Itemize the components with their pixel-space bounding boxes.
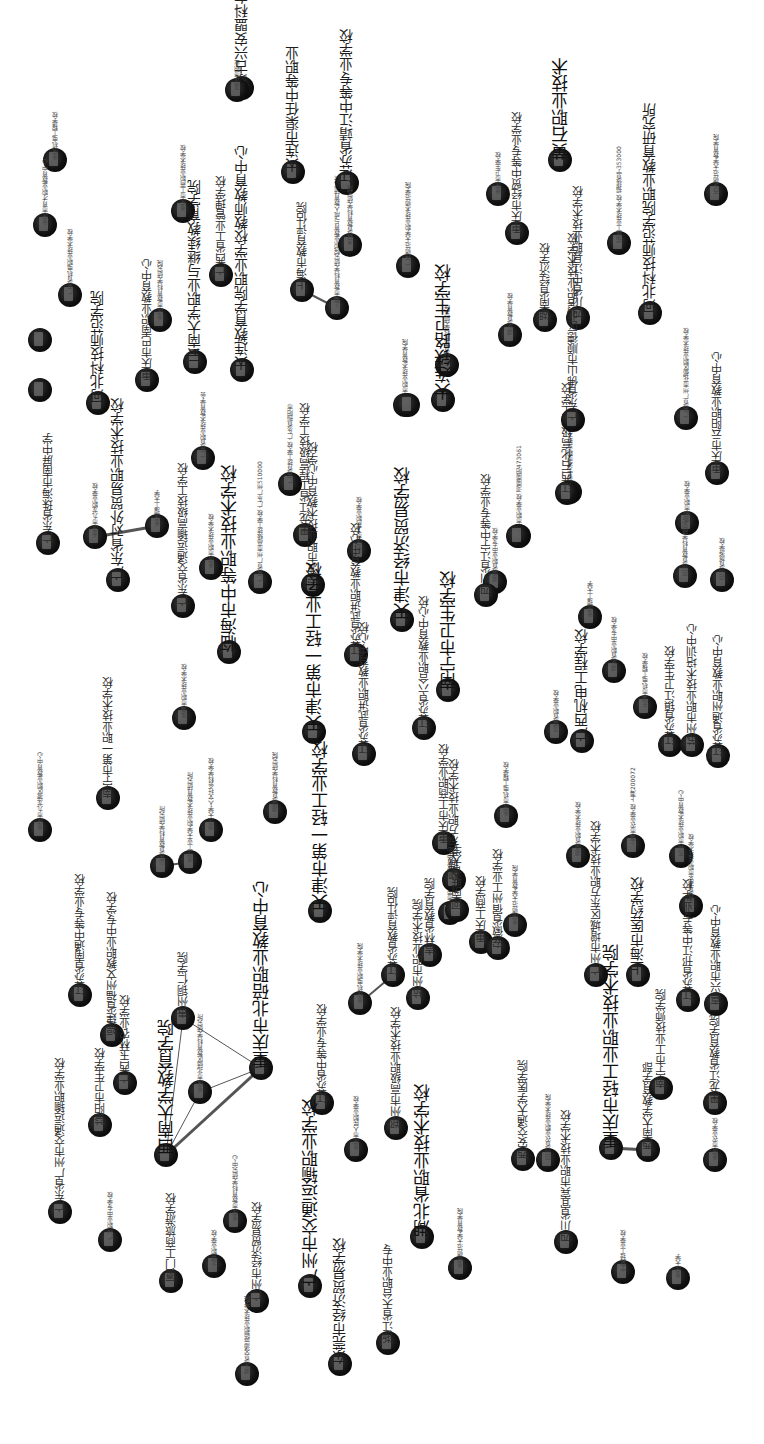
node-label: 广州市增城区东方职业技术学校 xyxy=(591,821,602,975)
node-badge-icon xyxy=(512,528,521,542)
node-label: 益阳市卫生学校 xyxy=(95,1048,106,1125)
node-label: 重庆市农业学校 xyxy=(712,1118,718,1160)
node-label: 宁夏轻工业学校 xyxy=(620,1230,626,1272)
node-label: 上海市农业学校 上海200072 xyxy=(630,767,636,846)
node-label: 重庆市教育科学研究中心 xyxy=(232,1155,238,1221)
node-label: 贵州铜仁学院 xyxy=(178,952,189,1018)
node-label: 重庆市轻工业职业技术学院 xyxy=(603,944,620,1148)
node-label: 湖北省职业中专学校 xyxy=(611,617,617,671)
graph-node[interactable] xyxy=(28,378,52,402)
node-label: 天津市经济贸易学校 xyxy=(394,467,411,620)
node-label: 重庆机电工程学校 xyxy=(52,112,58,160)
node-label: 天津市机电工程学校 xyxy=(642,653,648,707)
node-label: 黑龙江省教育学院 xyxy=(710,1015,721,1103)
node-label: 四川省农业职业技术学院 xyxy=(545,1094,551,1160)
node-label: 厦门工商旅游学校 xyxy=(166,1193,177,1281)
node-label: 大连市渠任中等职业 xyxy=(286,46,300,172)
node-label: 西南大学教育学部 xyxy=(643,1062,654,1150)
node-label: 重庆市经贸中等专业学校 xyxy=(512,112,523,233)
node-label: 广东省广州市高级技工学校 广东广州510000 xyxy=(257,461,263,582)
node-label: 广州市经济贸易学校 xyxy=(252,1202,263,1301)
node-label: 江苏省中等专业学校 xyxy=(317,1004,328,1103)
node-label: 西南大学教育学院 xyxy=(158,1019,175,1155)
node-label: 江苏省镇江卫生学校 xyxy=(665,646,676,745)
node-label: 嘉兴市职业教育中心 xyxy=(711,905,722,1004)
node-label: 湖北省交通运输职业技术学院 xyxy=(244,1296,250,1374)
node-label: 广西师范大学职业技术师范学院 xyxy=(405,182,411,266)
node-label: 福建工业技术学校 福建省宁353000 xyxy=(616,146,622,243)
node-label: 广西玉林农业学校 xyxy=(120,995,131,1083)
node-badge-icon xyxy=(402,397,411,411)
network-graph: 重庆机电工程学校 重庆市育才职业教育中心 广东省机电职业技术学校 河北科技师范学… xyxy=(0,0,764,1444)
node-label: 北京职业学校 xyxy=(211,1230,217,1266)
node-label: 福建省福州文教职业中专学校 xyxy=(107,892,118,1035)
node-label: 四川省旅游学校 xyxy=(719,538,725,580)
node-label: 天津市第一轻工业学校 xyxy=(306,562,323,732)
node-label: 江苏省邗江中等专业学校 xyxy=(683,879,694,1000)
node-label: 重庆市卫生学校 xyxy=(495,152,501,194)
node-label: 广东省对外贸易职业技术学校 xyxy=(111,398,125,580)
node-label: 广东省珠海市南屏中学 xyxy=(43,433,54,543)
node-label: 重庆市工商职业技术学校 xyxy=(180,145,186,211)
node-label: 西安交通大学医学院 xyxy=(518,1060,529,1159)
node-label: 东莞市经济贸易学校 xyxy=(333,1238,347,1364)
graph-node[interactable] xyxy=(28,328,52,352)
node-label: 广东省广州市花都区职业技术学校 xyxy=(683,328,689,418)
node-label: 云南大学职业与继续教育学院 xyxy=(188,180,202,362)
node-label: 浙江省天台职业中专 xyxy=(383,1244,394,1343)
graph-edge xyxy=(166,1068,261,1155)
node-label: 河南省职业学校 xyxy=(553,690,559,732)
node-label: 湖南省职业技术学校 xyxy=(575,802,581,856)
node-label: 大连铁路卫生学校 xyxy=(435,264,452,400)
node-label: 江苏省教育评估院 xyxy=(388,887,399,975)
node-label: 四川省宜宾市职业技术学校 xyxy=(561,1110,572,1242)
node-label: 重庆市教育科学研究院 xyxy=(157,260,163,320)
node-label: 广东省佛山市顺德区北滘职业技术学校 xyxy=(568,233,579,420)
node-label: 广东省职业技术教育学会 xyxy=(200,392,206,458)
node-label: 天津市第一轻工业学校 xyxy=(312,741,329,911)
node-label: 山东省教育科学研究所 xyxy=(159,806,165,866)
node-label: 重庆工商学校 xyxy=(476,876,487,942)
node-label: 苏州市职业技术教育中心 xyxy=(678,790,684,856)
node-label: 浙江工业大学职业技术教育研究所 xyxy=(187,772,193,862)
node-label: 珠海市职业技术学校 xyxy=(181,664,187,718)
node-badge-icon xyxy=(34,332,43,346)
node-label: 上海市医药学校 xyxy=(631,877,645,975)
node-label: 河北科技师范学院职业教育研究所 xyxy=(643,103,657,313)
node-label: 重庆市人民职业学校 xyxy=(353,1096,359,1150)
node-label: 广东省机电职业技术学校 xyxy=(67,229,73,295)
node-label: 吉林省教育学院 xyxy=(425,878,436,955)
node-label: 广东省交通运输高级技工学校 xyxy=(178,463,189,606)
node-label: 临海市中等职业技术学校 xyxy=(221,465,238,652)
node-label: 广州市交通运输职业学校 xyxy=(302,1099,319,1286)
node-label: 黄石职业技术 xyxy=(552,58,569,160)
node-label: 安徽省宿州工业学校 xyxy=(493,849,504,948)
node-label: 广东省广州市交通运输职业学校 xyxy=(55,1058,66,1212)
graph-node[interactable] xyxy=(506,524,530,548)
node-label: 湛江市职业 xyxy=(234,60,240,90)
node-label: 重庆市育才职业教育中心 xyxy=(42,159,48,225)
graph-edge xyxy=(183,1018,261,1068)
node-label: 重庆师范大学教育学院 xyxy=(457,1208,463,1268)
node-label: 郑州市高级职业技术学校 xyxy=(391,1007,402,1128)
node-label: 广西省工业管理学校 xyxy=(216,176,227,275)
node-label: 江苏省通州职业教育中心 xyxy=(713,635,724,756)
node-label: 河北科技师范学院 xyxy=(91,291,105,403)
node-label: 四川省江宁中等专业学校 xyxy=(481,474,492,595)
node-label: 南宁市职业学校 河南南阳473061 xyxy=(516,445,522,536)
node-label: 重庆机电职业技术学院 xyxy=(357,943,363,1003)
node-label: 南宁市工业技师学院 xyxy=(656,989,667,1088)
node-label: 杭州市职业技术学院 xyxy=(413,899,424,998)
node-label: 重庆市九龙职业学校 xyxy=(92,483,98,537)
node-label: 广东省技工学校 广东省揭阳市 xyxy=(287,404,293,484)
node-label: 湖北省职业技术学校 xyxy=(414,1084,431,1237)
graph-node[interactable] xyxy=(396,393,420,417)
node-label: 吉林省教育科学研究院 xyxy=(347,185,353,245)
node-label: 上海市教育评估院 xyxy=(297,202,308,290)
node-label: 西北师范大学教育学院 xyxy=(713,134,719,194)
node-label: 重庆大学 xyxy=(675,1254,681,1278)
node-label: 河南联合大学 xyxy=(452,844,463,910)
node-label: 重庆市云阳职业教育中心 xyxy=(712,352,723,473)
node-label: 苏州市职业技术培训中心 xyxy=(687,624,698,745)
node-label: 江苏省南通中等专业学校 xyxy=(75,874,86,995)
